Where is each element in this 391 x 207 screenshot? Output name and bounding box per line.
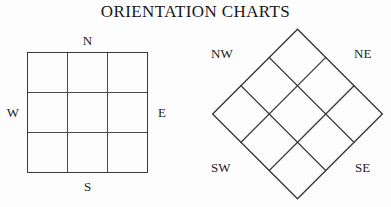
cardinal-label-south: S — [27, 180, 148, 193]
diamond-grid-3x3 — [200, 20, 391, 207]
cardinal-label-east: E — [152, 106, 172, 119]
intercardinal-orientation-chart: NW NE SW SE — [200, 20, 391, 207]
cardinal-label-west: W — [3, 106, 23, 119]
grid-vertical-line-1 — [67, 53, 68, 172]
orientation-charts-page: ORIENTATION CHARTS N W E S NW NE SW SE — [0, 0, 391, 207]
grid-horizontal-line-2 — [28, 132, 147, 133]
grid-horizontal-line-1 — [28, 92, 147, 93]
cardinal-orientation-chart: N W E S — [0, 26, 180, 207]
diamond-inner-lines — [213, 29, 383, 199]
grid-vertical-line-2 — [107, 53, 108, 172]
cardinal-label-north: N — [27, 34, 148, 47]
cardinal-grid-3x3 — [27, 52, 148, 173]
page-title: ORIENTATION CHARTS — [0, 2, 391, 22]
diamond-outline — [213, 29, 383, 199]
